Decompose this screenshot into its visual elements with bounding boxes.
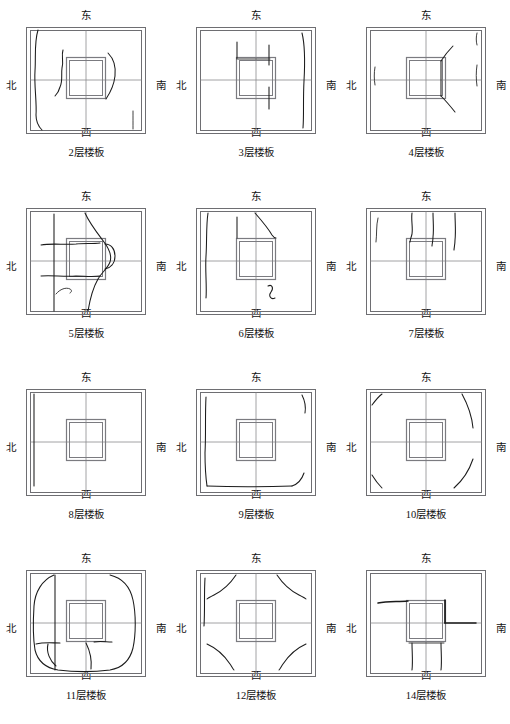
panel-caption: 4层楼板	[362, 147, 490, 159]
direction-label-left: 北	[346, 442, 356, 453]
direction-label-top: 东	[421, 372, 431, 383]
direction-label-left: 北	[6, 623, 16, 634]
slab-drawing	[192, 385, 320, 500]
slab-panel-4: 东 西 北 南 4层楼板	[362, 10, 490, 160]
panel-cell: 东 西 北 南 11层楼板	[0, 543, 170, 724]
panel-caption: 14层楼板	[362, 690, 490, 702]
panel-caption: 8层楼板	[22, 509, 150, 521]
panel-caption: 12层楼板	[192, 690, 320, 702]
panel-cell: 东 西 北 南 5层楼板	[0, 181, 170, 362]
panel-cell: 东 西 北 南 4层楼板	[340, 0, 510, 181]
direction-label-left: 北	[176, 80, 186, 91]
panel-caption: 7层楼板	[362, 328, 490, 340]
slab-drawing	[362, 23, 490, 138]
slab-drawing	[192, 23, 320, 138]
direction-label-right: 南	[496, 80, 506, 91]
slab-drawing	[22, 204, 150, 319]
panel-caption: 11层楼板	[22, 690, 150, 702]
direction-label-right: 南	[326, 80, 336, 91]
slab-panel-5: 东 西 北 南 5层楼板	[22, 191, 150, 341]
direction-label-left: 北	[176, 261, 186, 272]
panel-cell: 东 西 北 南 8层楼板	[0, 362, 170, 543]
direction-label-top: 东	[421, 553, 431, 564]
slab-drawing	[192, 204, 320, 319]
panel-cell: 东 西 北 南 9层楼板	[170, 362, 340, 543]
panel-caption: 5层楼板	[22, 328, 150, 340]
slab-panel-10: 东 西 北 南 10层楼板	[362, 372, 490, 522]
panel-caption: 9层楼板	[192, 509, 320, 521]
panel-cell: 东 西 北 南 12层楼板	[170, 543, 340, 724]
slab-panel-3: 东 西 北 南 3层楼板	[192, 10, 320, 160]
panel-cell: 东 西 北 南 14层楼板	[340, 543, 510, 724]
direction-label-right: 南	[156, 623, 166, 634]
slab-diagram-grid: 东 西 北 南 2层楼板 东 西 北 南	[0, 0, 510, 724]
slab-drawing	[192, 566, 320, 681]
slab-drawing	[22, 566, 150, 681]
slab-drawing	[362, 385, 490, 500]
direction-label-right: 南	[496, 261, 506, 272]
direction-label-right: 南	[156, 442, 166, 453]
slab-panel-2: 东 西 北 南 2层楼板	[22, 10, 150, 160]
slab-drawing	[362, 566, 490, 681]
panel-cell: 东 西 北 南 6层楼板	[170, 181, 340, 362]
slab-panel-9: 东 西 北 南 9层楼板	[192, 372, 320, 522]
slab-panel-6: 东 西 北 南 6层楼板	[192, 191, 320, 341]
panel-caption: 10层楼板	[362, 509, 490, 521]
panel-cell: 东 西 北 南 7层楼板	[340, 181, 510, 362]
direction-label-right: 南	[326, 442, 336, 453]
direction-label-right: 南	[496, 623, 506, 634]
panel-caption: 3层楼板	[192, 147, 320, 159]
panel-cell: 东 西 北 南 2层楼板	[0, 0, 170, 181]
direction-label-left: 北	[346, 261, 356, 272]
direction-label-top: 东	[251, 372, 261, 383]
direction-label-top: 东	[421, 10, 431, 21]
direction-label-left: 北	[6, 80, 16, 91]
direction-label-left: 北	[6, 442, 16, 453]
slab-drawing	[22, 385, 150, 500]
slab-drawing	[22, 23, 150, 138]
slab-panel-14: 东 西 北 南 14层楼板	[362, 553, 490, 703]
direction-label-top: 东	[81, 372, 91, 383]
slab-panel-8: 东 西 北 南 8层楼板	[22, 372, 150, 522]
direction-label-top: 东	[81, 553, 91, 564]
direction-label-top: 东	[251, 553, 261, 564]
direction-label-top: 东	[81, 10, 91, 21]
direction-label-top: 东	[421, 191, 431, 202]
direction-label-top: 东	[251, 191, 261, 202]
slab-drawing	[362, 204, 490, 319]
direction-label-left: 北	[346, 623, 356, 634]
direction-label-right: 南	[496, 442, 506, 453]
panel-cell: 东 西 北 南 10层楼板	[340, 362, 510, 543]
direction-label-top: 东	[251, 10, 261, 21]
direction-label-left: 北	[176, 623, 186, 634]
direction-label-right: 南	[326, 623, 336, 634]
panel-cell: 东 西 北 南 3层楼板	[170, 0, 340, 181]
panel-caption: 6层楼板	[192, 328, 320, 340]
slab-panel-12: 东 西 北 南 12层楼板	[192, 553, 320, 703]
direction-label-right: 南	[156, 80, 166, 91]
direction-label-right: 南	[326, 261, 336, 272]
direction-label-left: 北	[176, 442, 186, 453]
slab-panel-11: 东 西 北 南 11层楼板	[22, 553, 150, 703]
panel-caption: 2层楼板	[22, 147, 150, 159]
direction-label-top: 东	[81, 191, 91, 202]
slab-panel-7: 东 西 北 南 7层楼板	[362, 191, 490, 341]
direction-label-left: 北	[346, 80, 356, 91]
direction-label-left: 北	[6, 261, 16, 272]
direction-label-right: 南	[156, 261, 166, 272]
